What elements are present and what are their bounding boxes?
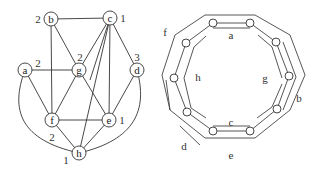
weight-h: 1	[63, 154, 69, 166]
edge-b-c	[51, 18, 110, 19]
node-b: b	[44, 12, 58, 26]
svg-text:f: f	[50, 114, 54, 126]
right-diagram: a b c d e f g h	[162, 15, 305, 161]
label-a: a	[229, 29, 234, 41]
label-e: e	[229, 149, 234, 161]
edge-c-h	[79, 18, 110, 153]
diagram-canvas: b c a g d f e h 2 1 2 2 3 2 1 1	[0, 0, 314, 173]
edge-c-f	[90, 18, 110, 80]
edge-d-e	[109, 70, 137, 120]
node-c: c	[103, 11, 117, 25]
svg-text:d: d	[134, 64, 140, 76]
weight-f: 2	[49, 131, 55, 143]
weight-a: 2	[35, 57, 41, 69]
svg-text:e: e	[107, 114, 112, 126]
edge-c-e	[109, 18, 110, 120]
label-h: h	[195, 71, 201, 83]
edge-c-g	[79, 18, 110, 70]
label-c: c	[229, 116, 234, 128]
node-g: g	[72, 63, 86, 77]
label-b: b	[296, 92, 302, 104]
weight-c: 1	[120, 12, 126, 24]
left-graph: b c a g d f e h 2 1 2 2 3 2 1 1	[18, 11, 144, 166]
outer-decagon	[162, 15, 305, 138]
svg-text:g: g	[76, 64, 82, 76]
node-f: f	[45, 113, 59, 127]
edge-b-g	[51, 19, 79, 70]
edges	[19, 18, 141, 153]
label-f: f	[163, 26, 167, 38]
label-d: d	[181, 140, 187, 152]
node-a: a	[18, 63, 32, 77]
svg-text:h: h	[76, 147, 82, 159]
label-g: g	[262, 72, 268, 84]
edge-g-e	[79, 70, 109, 120]
weight-e: 1	[119, 114, 125, 126]
weight-b: 2	[35, 13, 41, 25]
edge-a-f	[25, 70, 52, 120]
node-d: d	[130, 63, 144, 77]
edge-g-f	[52, 70, 79, 120]
svg-text:b: b	[48, 13, 54, 25]
node-e: e	[102, 113, 116, 127]
svg-text:a: a	[23, 64, 28, 76]
weight-g: 2	[77, 51, 83, 63]
edge-c-d	[110, 18, 137, 70]
node-h: h	[72, 146, 86, 160]
svg-text:c: c	[108, 12, 113, 24]
nodes: b c a g d f e h	[18, 11, 144, 160]
weight-d: 3	[134, 51, 140, 63]
edge-b-f	[51, 19, 52, 120]
